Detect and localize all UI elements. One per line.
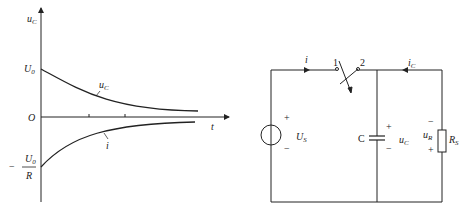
voltage-source: [261, 125, 281, 145]
resistor: [438, 130, 446, 152]
switch-pos-1: 1: [333, 57, 338, 68]
neg-fraction-denominator: R: [25, 170, 32, 181]
curve-i-label: i: [106, 140, 109, 151]
curve-uc-label: uC: [99, 79, 109, 92]
res-plus: +: [428, 144, 434, 155]
current-i-label: i: [305, 54, 308, 65]
resistor-label: RS: [448, 134, 459, 147]
source-plus: +: [284, 112, 290, 123]
switch-pos-2: 2: [360, 57, 365, 68]
i-current-curve: [41, 122, 195, 167]
uc-pointer: [96, 91, 100, 96]
res-voltage-label: uR: [423, 129, 433, 142]
diagram-canvas: uC t O U0 − U0 R uC i: [0, 0, 461, 213]
cap-plus: +: [386, 121, 392, 132]
switch: [336, 61, 360, 93]
current-ic-label: iC: [408, 57, 416, 70]
neg-sign: −: [9, 161, 15, 172]
x-axis-label: t: [211, 121, 214, 132]
response-graph: uC t O U0 − U0 R uC i: [9, 8, 229, 202]
u0-label: U0: [24, 63, 35, 76]
y-axis-label: uC: [27, 13, 37, 26]
res-minus: −: [428, 116, 434, 127]
source-label: US: [296, 131, 307, 144]
uc-decay-curve: [41, 69, 198, 111]
current-i-arrow: [304, 67, 310, 73]
capacitor-label: C: [358, 133, 365, 144]
i-pointer: [104, 133, 108, 139]
source-minus: −: [284, 143, 290, 154]
cap-voltage-label: uC: [399, 134, 409, 147]
neg-fraction-numerator: U0: [25, 153, 36, 166]
cap-minus: −: [386, 143, 392, 154]
origin-label: O: [28, 112, 35, 123]
capacitor: [369, 136, 385, 140]
